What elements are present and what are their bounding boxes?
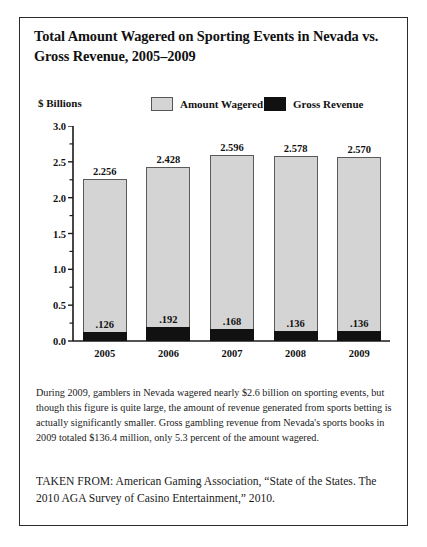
bar-value-label-amount-wagered: 2.596 xyxy=(210,142,254,153)
y-axis-tick-label: 1.5 xyxy=(53,228,66,239)
legend-swatch-icon-amount-wagered xyxy=(151,97,173,111)
bar-value-label-gross-revenue: .126 xyxy=(83,319,127,330)
figure-source: TAKEN FROM: American Gaming Association,… xyxy=(36,473,392,508)
bar-amount-wagered xyxy=(337,157,381,341)
bar-amount-wagered xyxy=(210,155,254,341)
x-axis-tick-label: 2009 xyxy=(337,348,381,359)
legend-label-amount-wagered: Amount Wagered xyxy=(180,98,263,110)
bar-amount-wagered xyxy=(274,156,318,341)
bar-gross-revenue xyxy=(210,329,254,341)
bar-amount-wagered xyxy=(83,179,127,341)
y-axis-tick-label: 2.0 xyxy=(53,192,66,203)
legend-swatch-icon-gross-revenue xyxy=(264,97,286,111)
y-axis-unit-label: $ Billions xyxy=(38,97,82,109)
bar-value-label-amount-wagered: 2.428 xyxy=(146,154,190,165)
y-axis-tick-label: 1.0 xyxy=(53,264,66,275)
bar-value-label-gross-revenue: .168 xyxy=(210,316,254,327)
bars-layer: 2.256.1262.428.1922.596.1682.578.1362.57… xyxy=(73,126,391,341)
y-axis-tick-label: 2.5 xyxy=(53,156,66,167)
bar-value-label-amount-wagered: 2.578 xyxy=(274,143,318,154)
x-axis-tick-labels: 20052006200720082009 xyxy=(73,348,391,366)
y-axis-tick-label: 0.0 xyxy=(53,336,66,347)
x-axis-tick-label: 2006 xyxy=(146,348,190,359)
y-axis-tick-labels: 3.02.52.01.51.00.50.0 xyxy=(34,126,66,341)
legend-item-amount-wagered: Amount Wagered xyxy=(151,96,263,112)
figure-caption: During 2009, gamblers in Nevada wagered … xyxy=(36,386,392,446)
bar-value-label-amount-wagered: 2.570 xyxy=(337,144,381,155)
bar-value-label-gross-revenue: .192 xyxy=(146,314,190,325)
legend-item-gross-revenue: Gross Revenue xyxy=(264,96,363,112)
chart-title: Total Amount Wagered on Sporting Events … xyxy=(34,27,384,67)
bar-gross-revenue xyxy=(274,331,318,341)
figure-container: Total Amount Wagered on Sporting Events … xyxy=(19,17,408,526)
bar-gross-revenue xyxy=(337,331,381,341)
bar-gross-revenue xyxy=(146,327,190,341)
plot-area: 3.02.52.01.51.00.50.0 2.256.1262.428.192… xyxy=(34,126,394,374)
chart-legend: $ Billions Amount Wagered Gross Revenue xyxy=(34,96,394,114)
bar-gross-revenue xyxy=(83,332,127,341)
x-axis-tick-label: 2005 xyxy=(83,348,127,359)
x-axis-tick-label: 2008 xyxy=(274,348,318,359)
bar-value-label-amount-wagered: 2.256 xyxy=(83,166,127,177)
bar-value-label-gross-revenue: .136 xyxy=(274,318,318,329)
x-axis-tick-label: 2007 xyxy=(210,348,254,359)
bar-value-label-gross-revenue: .136 xyxy=(337,318,381,329)
y-axis-tick-label: 0.5 xyxy=(53,300,66,311)
legend-label-gross-revenue: Gross Revenue xyxy=(293,98,363,110)
y-axis-tick-label: 3.0 xyxy=(53,121,66,132)
